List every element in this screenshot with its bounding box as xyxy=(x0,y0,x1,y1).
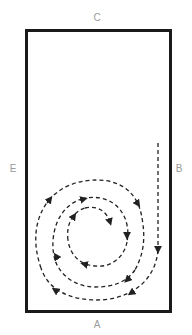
outer-loop-bottom xyxy=(41,250,158,300)
middle-loop-top xyxy=(82,197,128,242)
middle-loop-bottom xyxy=(55,260,135,287)
inner-loop-left xyxy=(68,208,85,240)
outer-loop-left xyxy=(36,200,49,268)
spiral-path xyxy=(0,0,192,335)
inner-loop-right xyxy=(68,240,127,266)
inner-loop-end xyxy=(85,207,110,222)
middle-loop-right xyxy=(135,218,144,270)
